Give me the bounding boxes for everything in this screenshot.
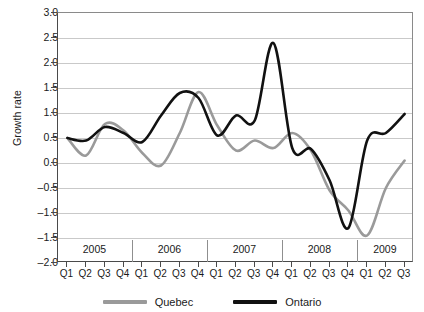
x-axis-tick-mark — [291, 262, 292, 267]
x-axis-year-label: 2005 — [59, 243, 129, 255]
legend-item-quebec: Quebec — [103, 296, 194, 308]
legend-label-quebec: Quebec — [155, 296, 194, 308]
x-axis-tick-label: Q3 — [391, 268, 417, 279]
x-axis-tick-mark — [310, 262, 311, 267]
legend-swatch-quebec — [103, 300, 147, 303]
x-axis-year-label: 2007 — [209, 243, 279, 255]
legend-item-ontario: Ontario — [233, 296, 321, 308]
x-axis-year-separator — [357, 240, 358, 262]
x-axis-year-label: 2008 — [284, 243, 354, 255]
x-axis-year-separator — [282, 240, 283, 262]
x-axis-tick-mark — [123, 262, 124, 267]
x-axis-tick-mark — [179, 262, 180, 267]
x-axis-tick-mark — [385, 262, 386, 267]
x-axis-tick-mark — [404, 262, 405, 267]
x-axis-year-label: 2006 — [134, 243, 204, 255]
x-axis-tick-mark — [347, 262, 348, 267]
x-axis-tick-mark — [254, 262, 255, 267]
x-axis-tick-mark — [366, 262, 367, 267]
x-axis-tick-mark — [235, 262, 236, 267]
series-lines — [58, 13, 414, 263]
x-axis-year-separator — [207, 240, 208, 262]
y-axis-tick-mark — [51, 262, 57, 263]
x-axis-year-separator — [132, 240, 133, 262]
x-axis-year-label: 2009 — [350, 243, 420, 255]
x-axis-tick-mark — [216, 262, 217, 267]
x-axis-tick-mark — [85, 262, 86, 267]
x-axis-tick-mark — [329, 262, 330, 267]
x-axis-tick-mark — [198, 262, 199, 267]
plot-area — [57, 12, 413, 262]
x-axis-tick-mark — [160, 262, 161, 267]
x-axis-tick-mark — [272, 262, 273, 267]
x-axis-tick-mark — [141, 262, 142, 267]
chart-legend: Quebec Ontario — [0, 292, 424, 312]
legend-label-ontario: Ontario — [285, 296, 321, 308]
x-axis-tick-mark — [104, 262, 105, 267]
series-line-ontario — [67, 43, 404, 229]
y-axis-title: Growth rate — [11, 63, 23, 173]
legend-swatch-ontario — [233, 300, 277, 303]
x-axis-tick-mark — [66, 262, 67, 267]
growth-rate-line-chart: Growth rate 3.02.52.01.51.00.50.0–0.5–1.… — [0, 0, 424, 312]
